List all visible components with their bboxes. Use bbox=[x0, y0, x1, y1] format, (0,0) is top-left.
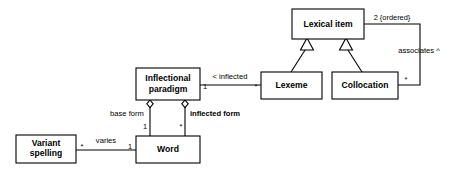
generalization-collocation-to-lexical-item bbox=[340, 38, 363, 72]
uml-class-diagram: Lexical item Lexeme Collocation Inflecti… bbox=[0, 0, 449, 174]
class-name-inflectional-paradigm-line2: paradigm bbox=[149, 84, 188, 94]
multiplicity-varies-target: 1 bbox=[128, 142, 132, 151]
role-label-base-form: base form bbox=[110, 109, 144, 118]
aggregation-diamond-icon bbox=[182, 100, 188, 108]
generalization-line bbox=[346, 47, 362, 72]
class-name-word: Word bbox=[157, 144, 179, 154]
class-box-variant-spelling[interactable]: Variant spelling bbox=[16, 135, 76, 163]
class-box-lexical-item[interactable]: Lexical item bbox=[292, 9, 364, 39]
class-name-collocation: Collocation bbox=[342, 80, 389, 90]
class-box-collocation[interactable]: Collocation bbox=[332, 72, 398, 99]
association-label-associates: associates ^ bbox=[398, 46, 440, 55]
generalization-arrowhead-icon bbox=[301, 38, 314, 50]
multiplicity-inflected-form-target: * bbox=[180, 122, 183, 131]
association-label-varies: varies bbox=[96, 136, 116, 145]
multiplicity-inflected-target: * bbox=[255, 82, 258, 91]
aggregation-base-form bbox=[147, 100, 153, 136]
aggregation-inflected-form bbox=[182, 100, 188, 136]
multiplicity-associates-target: * bbox=[405, 75, 408, 84]
class-box-inflectional-paradigm[interactable]: Inflectional paradigm bbox=[136, 68, 200, 100]
aggregation-diamond-icon bbox=[147, 100, 153, 108]
multiplicity-associates-source: 2 {ordered} bbox=[374, 13, 411, 22]
generalization-arrowhead-icon bbox=[340, 38, 353, 50]
generalization-lexeme-to-lexical-item bbox=[291, 38, 314, 72]
class-name-variant-spelling-line2: spelling bbox=[30, 148, 62, 158]
class-box-lexeme[interactable]: Lexeme bbox=[261, 72, 322, 99]
multiplicity-varies-source: * bbox=[81, 142, 84, 151]
multiplicity-base-form-target: 1 bbox=[143, 122, 147, 131]
class-name-lexical-item: Lexical item bbox=[303, 19, 353, 29]
diagram-canvas: Lexical item Lexeme Collocation Inflecti… bbox=[0, 0, 449, 174]
role-label-inflected-form: inflected form bbox=[190, 109, 240, 118]
association-label-inflected: < inflected bbox=[213, 72, 248, 81]
generalization-line bbox=[291, 47, 307, 72]
class-box-word[interactable]: Word bbox=[136, 136, 200, 163]
multiplicity-inflected-source: 1 bbox=[203, 82, 207, 91]
class-name-variant-spelling-line1: Variant bbox=[32, 138, 61, 148]
class-name-lexeme: Lexeme bbox=[275, 80, 307, 90]
class-name-inflectional-paradigm-line1: Inflectional bbox=[145, 73, 190, 83]
